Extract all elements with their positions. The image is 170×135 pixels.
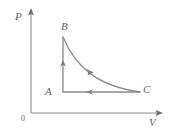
volume-axis-label: V bbox=[149, 117, 156, 128]
origin-label: 0 bbox=[21, 115, 25, 123]
pv-diagram: P V 0 A B C bbox=[0, 0, 170, 135]
pressure-axis-label: P bbox=[15, 11, 22, 22]
point-label-a: A bbox=[45, 86, 52, 97]
pv-diagram-canvas bbox=[0, 0, 170, 135]
point-label-c: C bbox=[143, 84, 150, 95]
segment-b-to-c bbox=[63, 37, 140, 92]
point-label-b: B bbox=[61, 21, 68, 32]
